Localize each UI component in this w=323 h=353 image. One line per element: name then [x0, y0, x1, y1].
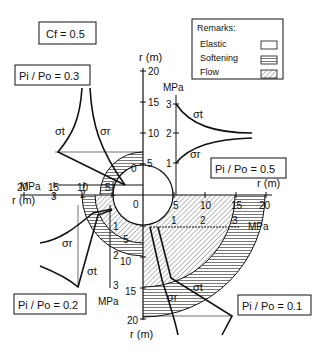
svg-text:5: 5	[173, 200, 179, 211]
svg-text:20: 20	[127, 315, 139, 326]
svg-text:0: 0	[133, 199, 139, 210]
svg-text:Pi / Po = 0.1: Pi / Po = 0.1	[242, 300, 302, 312]
svg-text:1: 1	[110, 187, 116, 198]
svg-text:15: 15	[125, 286, 137, 297]
svg-text:r (m): r (m)	[139, 51, 162, 63]
svg-text:2: 2	[166, 128, 172, 139]
svg-text:r (m): r (m)	[12, 194, 35, 206]
svg-text:σr: σr	[190, 148, 201, 160]
svg-text:σt: σt	[87, 265, 97, 277]
svg-text:3: 3	[51, 191, 57, 202]
svg-text:2: 2	[113, 250, 119, 261]
svg-text:MPa: MPa	[248, 221, 269, 232]
svg-text:σt: σt	[193, 281, 203, 293]
svg-text:10: 10	[148, 128, 160, 139]
svg-text:Pi / Po = 0.5: Pi / Po = 0.5	[215, 163, 275, 175]
svg-text:σt: σt	[193, 108, 203, 120]
svg-text:3: 3	[166, 99, 172, 110]
svg-text:15: 15	[231, 200, 243, 211]
svg-text:20: 20	[259, 200, 271, 211]
svg-text:σr: σr	[167, 291, 178, 303]
svg-text:2: 2	[200, 215, 206, 226]
legend: Remarks: Elastic Softening Flow	[192, 19, 283, 79]
svg-text:MPa: MPa	[98, 296, 119, 307]
svg-text:Pi / Po = 0.2: Pi / Po = 0.2	[18, 299, 78, 311]
svg-text:10: 10	[200, 200, 212, 211]
svg-text:5: 5	[147, 158, 153, 169]
svg-text:Remarks:: Remarks:	[197, 23, 236, 33]
svg-text:Flow: Flow	[200, 67, 220, 77]
svg-text:Pi / Po = 0.3: Pi / Po = 0.3	[19, 70, 79, 82]
stress-distribution-diagram: 2015105 0 2015105 0 5101520 5101520 r (m…	[0, 0, 323, 353]
svg-text:0: 0	[131, 163, 137, 174]
svg-text:1: 1	[113, 221, 119, 232]
svg-text:MPa: MPa	[163, 82, 184, 93]
svg-text:σr: σr	[100, 125, 111, 137]
svg-text:MPa: MPa	[20, 181, 41, 192]
svg-text:Softening: Softening	[200, 53, 238, 63]
svg-text:3: 3	[232, 215, 238, 226]
svg-text:5: 5	[123, 234, 129, 245]
svg-text:Cf = 0.5: Cf = 0.5	[46, 28, 85, 40]
svg-text:2: 2	[80, 189, 86, 200]
svg-text:10: 10	[120, 256, 132, 267]
svg-text:σr: σr	[62, 237, 73, 249]
svg-text:Elastic: Elastic	[200, 39, 227, 49]
svg-text:15: 15	[148, 97, 160, 108]
svg-text:3: 3	[113, 280, 119, 291]
svg-text:σt: σt	[55, 125, 65, 137]
svg-text:1: 1	[166, 158, 172, 169]
svg-text:20: 20	[148, 66, 160, 77]
svg-text:r (m): r (m)	[257, 177, 280, 189]
svg-text:1: 1	[171, 215, 177, 226]
svg-text:r (m): r (m)	[130, 328, 153, 340]
